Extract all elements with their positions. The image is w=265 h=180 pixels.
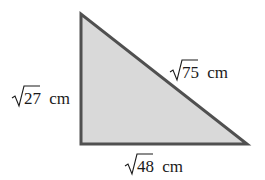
triangle-diagram: 27 cm 75 cm 48 cm [0, 0, 265, 180]
hypotenuse-radicand: 75 [182, 63, 199, 82]
label-vertical-side: 27 cm [12, 86, 70, 108]
horizontal-radicand: 48 [137, 157, 154, 176]
label-hypotenuse: 75 cm [170, 60, 228, 82]
horizontal-unit: cm [162, 157, 183, 176]
svg-text:27 cm: 27 cm [24, 89, 70, 108]
vertical-radicand: 27 [24, 89, 42, 108]
vertical-unit: cm [49, 89, 70, 108]
svg-text:75 cm: 75 cm [182, 63, 228, 82]
svg-text:48 cm: 48 cm [137, 157, 183, 176]
hypotenuse-unit: cm [207, 63, 228, 82]
label-horizontal-side: 48 cm [125, 154, 183, 176]
